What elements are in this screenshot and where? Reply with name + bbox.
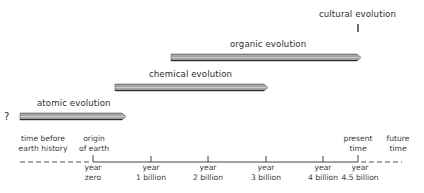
tick-label-3-billion: year 3 billion xyxy=(244,163,288,183)
organic-evolution-label: organic evolution xyxy=(230,39,306,49)
atomic-evolution-bar xyxy=(20,113,126,120)
chemical-evolution-label: chemical evolution xyxy=(149,69,232,79)
time-before-earth-label: time before earth history xyxy=(12,134,74,154)
chemical-evolution-bar xyxy=(115,84,268,91)
future-time-label: future time xyxy=(380,134,416,154)
time-axis xyxy=(20,155,402,162)
cultural-evolution-label: cultural evolution xyxy=(319,9,396,19)
tick-label-year-zero: year zero xyxy=(78,163,108,183)
question-mark: ? xyxy=(4,111,9,122)
organic-evolution-bar xyxy=(171,54,361,61)
tick-label-4-5-billion: year 4.5 billion xyxy=(337,163,383,183)
tick-label-1-billion: year 1 billion xyxy=(129,163,173,183)
origin-of-earth-label: origin of earth xyxy=(76,134,112,154)
tick-label-2-billion: year 2 billion xyxy=(186,163,230,183)
atomic-evolution-label: atomic evolution xyxy=(37,98,111,108)
present-time-label: present time xyxy=(340,134,376,154)
